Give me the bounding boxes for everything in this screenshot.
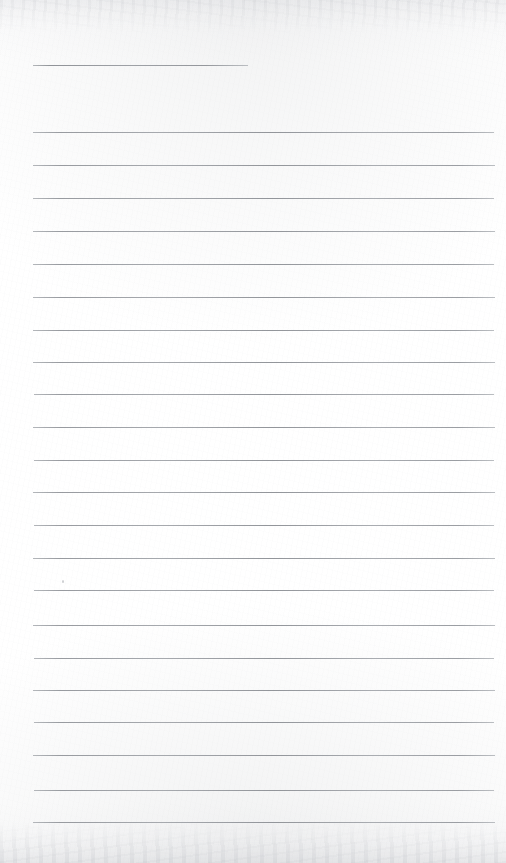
paper-grain-overlay xyxy=(0,0,506,863)
ruled-line xyxy=(33,362,495,363)
ruled-line xyxy=(33,65,248,66)
ruled-line xyxy=(33,132,494,133)
ruled-line xyxy=(33,690,495,691)
scanned-page xyxy=(0,0,506,863)
ruled-line xyxy=(34,722,494,723)
ruled-line xyxy=(33,198,494,199)
ruled-line xyxy=(33,755,495,756)
ruled-line xyxy=(34,590,494,591)
ruled-line xyxy=(33,297,495,298)
ruled-line xyxy=(33,625,495,626)
ruled-line xyxy=(33,165,495,166)
ruled-line xyxy=(34,460,494,461)
ruled-line xyxy=(34,790,494,791)
ruled-line xyxy=(34,525,494,526)
ruled-line xyxy=(34,658,494,659)
ruled-line xyxy=(33,231,495,232)
paper-fleck-artifact xyxy=(62,580,64,583)
scanner-haze-top xyxy=(0,0,506,34)
ruled-line xyxy=(33,264,494,265)
ruled-line xyxy=(33,427,495,428)
ruled-line xyxy=(33,822,495,823)
scanner-shadow-bottom xyxy=(0,821,506,863)
ruled-line xyxy=(33,492,495,493)
ruled-line xyxy=(33,330,494,331)
ruled-line xyxy=(34,394,494,395)
ruled-line xyxy=(33,558,495,559)
